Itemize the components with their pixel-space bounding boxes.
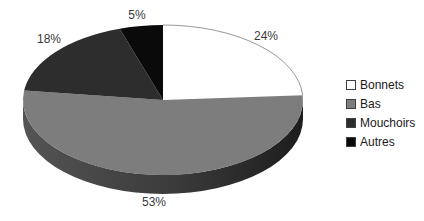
- legend: Bonnets Bas Mouchoirs Autres: [346, 75, 415, 151]
- legend-swatch-bas: [346, 99, 356, 109]
- slice-label-autres: 5%: [128, 9, 145, 22]
- legend-label-bas: Bas: [360, 97, 381, 111]
- legend-swatch-bonnets: [346, 80, 356, 90]
- legend-swatch-mouchoirs: [346, 118, 356, 128]
- slice-label-bas: 53%: [142, 196, 166, 209]
- legend-label-autres: Autres: [360, 135, 395, 149]
- slice-label-bonnets: 24%: [254, 30, 278, 43]
- pie-chart-figure: 24% 53% 18% 5% Bonnets Bas Mouchoirs Aut…: [0, 0, 424, 221]
- legend-item-mouchoirs: Mouchoirs: [346, 113, 415, 132]
- legend-item-autres: Autres: [346, 132, 415, 151]
- slice-label-mouchoirs: 18%: [37, 33, 61, 46]
- legend-item-bas: Bas: [346, 94, 415, 113]
- legend-label-mouchoirs: Mouchoirs: [360, 116, 415, 130]
- legend-swatch-autres: [346, 137, 356, 147]
- legend-item-bonnets: Bonnets: [346, 75, 415, 94]
- legend-label-bonnets: Bonnets: [360, 78, 404, 92]
